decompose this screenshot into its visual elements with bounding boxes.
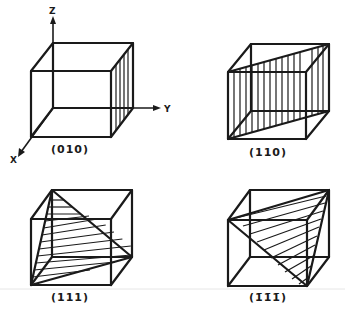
miller-planes-diagram: Z Y X (010): [0, 0, 345, 312]
label-110: (110): [249, 146, 287, 159]
y-arrow-icon: [153, 105, 161, 111]
x-arrow-icon: [18, 148, 25, 157]
cube-010: Z Y X (010): [10, 6, 171, 165]
label-neg111: (1̄1̄1̄): [249, 291, 287, 304]
plane-110-hatching: [234, 46, 323, 138]
cube-front-face: [31, 71, 111, 137]
z-axis-label: Z: [49, 6, 56, 16]
cube-neg111: (1̄1̄1̄): [228, 190, 329, 304]
z-arrow-icon: [50, 16, 56, 24]
x-axis-label: X: [10, 155, 17, 165]
cube-110: (110): [228, 44, 329, 159]
cube-111: (111): [31, 190, 132, 304]
label-111: (111): [51, 291, 89, 304]
label-010: (010): [51, 143, 89, 156]
y-axis-label: Y: [163, 104, 171, 114]
plane-111-outline: [31, 190, 132, 285]
